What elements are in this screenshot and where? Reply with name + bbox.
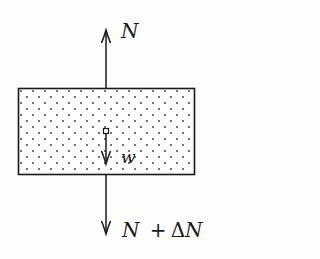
bottom-force-N2: N	[185, 218, 203, 242]
top-force-label: N	[121, 21, 139, 41]
bottom-force-arrow	[102, 175, 111, 234]
top-force-arrow	[102, 30, 111, 88]
center-of-mass-marker	[104, 129, 109, 134]
bottom-force-delta: Δ	[171, 218, 185, 242]
bottom-force-plus: +	[150, 218, 167, 242]
weight-label: w	[121, 149, 136, 166]
bottom-force-label: N +ΔN	[122, 220, 203, 240]
bottom-force-N: N	[122, 218, 140, 242]
